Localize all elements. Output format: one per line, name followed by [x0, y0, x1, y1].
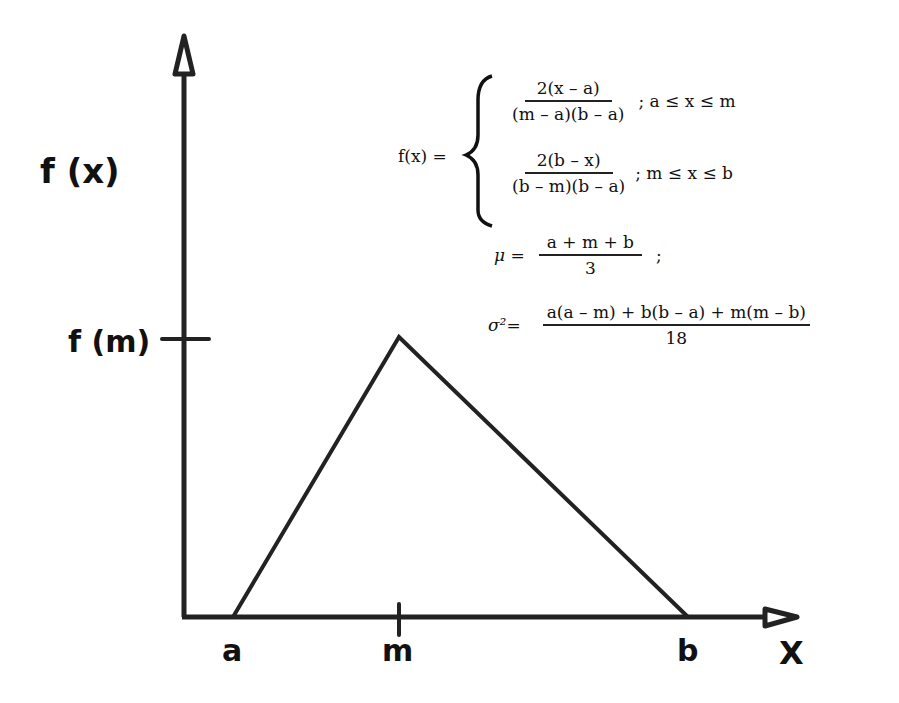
pdf-case-1-numerator: 2(x – a) — [525, 78, 612, 102]
tick-label-b: b — [677, 633, 698, 668]
peak-label: f (m) — [68, 324, 150, 359]
pdf-case-1-condition: ; a ≤ x ≤ m — [638, 91, 735, 111]
pdf-case-2-fraction: 2(b – x) (b – m)(b – a) — [508, 150, 629, 196]
mean-numerator: a + m + b — [539, 232, 642, 256]
variance-lhs: σ²= — [488, 315, 521, 335]
mean-fraction: a + m + b 3 — [539, 232, 642, 278]
pdf-case-2: 2(b – x) (b – m)(b – a) ; m ≤ x ≤ b — [508, 150, 733, 196]
pdf-case-2-denominator: (b – m)(b – a) — [508, 174, 629, 196]
x-axis-label: X — [779, 634, 804, 672]
y-axis-arrow-icon — [175, 36, 193, 74]
pdf-case-1-denominator: (m – a)(b – a) — [508, 102, 628, 124]
variance-numerator: a(a – m) + b(b – a) + m(m – b) — [543, 302, 810, 326]
mean-formula: μ = a + m + b 3 ; — [494, 232, 662, 278]
y-axis-label: f (x) — [40, 151, 120, 191]
mean-denominator: 3 — [581, 256, 600, 278]
pdf-case-1-fraction: 2(x – a) (m – a)(b – a) — [508, 78, 628, 124]
triangle-pdf-curve — [233, 337, 688, 617]
pdf-case-2-numerator: 2(b – x) — [525, 150, 613, 174]
mean-lhs: μ = — [494, 245, 525, 265]
pdf-case-2-condition: ; m ≤ x ≤ b — [635, 163, 733, 183]
x-axis-arrow-icon — [765, 609, 797, 626]
mean-suffix: ; — [656, 245, 662, 265]
tick-label-a: a — [222, 633, 242, 668]
triangular-distribution-plot: f (x) f (m) a m b X — [0, 0, 899, 703]
variance-formula: σ²= a(a – m) + b(b – a) + m(m – b) 18 — [488, 302, 810, 348]
pdf-case-1: 2(x – a) (m – a)(b – a) ; a ≤ x ≤ m — [508, 78, 736, 124]
tick-label-m: m — [382, 633, 413, 668]
variance-fraction: a(a – m) + b(b – a) + m(m – b) 18 — [543, 302, 810, 348]
variance-denominator: 18 — [661, 326, 691, 348]
brace-icon — [466, 76, 492, 226]
pdf-lhs: f(x) = — [398, 146, 447, 166]
